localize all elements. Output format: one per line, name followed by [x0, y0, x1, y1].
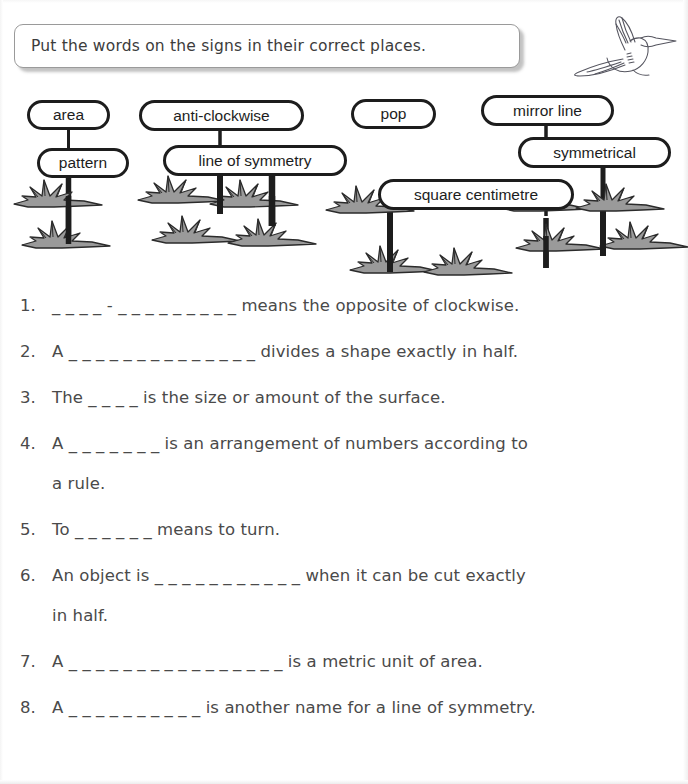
question-7-text: A _ _ _ _ _ _ _ _ _ _ _ _ _ _ _ _ is a m… — [52, 652, 483, 671]
sign-pop[interactable]: pop — [351, 99, 436, 129]
question-2-text: A _ _ _ _ _ _ _ _ _ _ _ _ _ _ divides a … — [52, 342, 518, 361]
question-4: 4. A _ _ _ _ _ _ _ is an arrangement of … — [0, 434, 688, 460]
question-6-continuation: in half. — [0, 606, 688, 632]
question-6-text: An object is _ _ _ _ _ _ _ _ _ _ _ when … — [52, 566, 526, 585]
instruction-text: Put the words on the signs in their corr… — [31, 37, 426, 55]
sign-mirror-line[interactable]: mirror line — [481, 95, 614, 126]
word-signs-diagram: area pattern anti-clockwise line of symm… — [0, 86, 688, 296]
question-4-text: A _ _ _ _ _ _ _ is an arrangement of num… — [52, 434, 528, 453]
question-3-number: 3. — [20, 388, 52, 407]
sign-square-centimetre[interactable]: square centimetre — [378, 179, 574, 210]
sign-anti-clockwise-label: anti-clockwise — [173, 107, 269, 125]
question-1-number: 1. — [20, 296, 52, 315]
instruction-banner: Put the words on the signs in their corr… — [14, 24, 520, 68]
sign-symmetrical[interactable]: symmetrical — [518, 137, 671, 168]
sign-symmetrical-label: symmetrical — [553, 144, 636, 162]
question-4-continuation-text: a rule. — [52, 474, 105, 493]
sign-line-of-symmetry-label: line of symmetry — [199, 152, 312, 170]
question-8-text: A _ _ _ _ _ _ _ _ _ _ is another name fo… — [52, 698, 536, 717]
sign-line-of-symmetry[interactable]: line of symmetry — [163, 145, 347, 176]
question-7-number: 7. — [20, 652, 52, 671]
questions-list: 1. _ _ _ _ - _ _ _ _ _ _ _ _ _ means the… — [0, 296, 688, 724]
question-4-continuation: a rule. — [0, 474, 688, 500]
question-5-text: To _ _ _ _ _ _ means to turn. — [52, 520, 280, 539]
question-4-number: 4. — [20, 434, 52, 453]
sign-pattern[interactable]: pattern — [37, 148, 129, 178]
question-1: 1. _ _ _ _ - _ _ _ _ _ _ _ _ _ means the… — [0, 296, 688, 322]
question-5: 5. To _ _ _ _ _ _ means to turn. — [0, 520, 688, 546]
question-5-number: 5. — [20, 520, 52, 539]
page-edge-top — [0, 0, 688, 3]
sign-pattern-label: pattern — [59, 154, 107, 172]
question-3: 3. The _ _ _ _ is the size or amount of … — [0, 388, 688, 414]
sign-square-centimetre-label: square centimetre — [414, 186, 538, 204]
sign-area-label: area — [53, 106, 84, 124]
bird-flying-icon — [563, 12, 681, 84]
question-8: 8. A _ _ _ _ _ _ _ _ _ _ is another name… — [0, 698, 688, 724]
question-1-text: _ _ _ _ - _ _ _ _ _ _ _ _ _ means the op… — [52, 296, 519, 315]
question-2: 2. A _ _ _ _ _ _ _ _ _ _ _ _ _ _ divides… — [0, 342, 688, 368]
question-6: 6. An object is _ _ _ _ _ _ _ _ _ _ _ wh… — [0, 566, 688, 592]
question-6-number: 6. — [20, 566, 52, 585]
sign-mirror-line-label: mirror line — [513, 102, 582, 120]
question-2-number: 2. — [20, 342, 52, 361]
question-8-number: 8. — [20, 698, 52, 717]
page-edge-bottom — [0, 780, 688, 784]
question-3-text: The _ _ _ _ is the size or amount of the… — [52, 388, 446, 407]
sign-anti-clockwise[interactable]: anti-clockwise — [139, 100, 304, 131]
question-7: 7. A _ _ _ _ _ _ _ _ _ _ _ _ _ _ _ _ is … — [0, 652, 688, 678]
sign-area[interactable]: area — [27, 100, 110, 130]
sign-pop-label: pop — [381, 105, 407, 123]
question-6-continuation-text: in half. — [52, 606, 108, 625]
